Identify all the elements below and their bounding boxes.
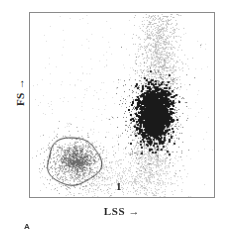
y-axis-label: FS → [14,65,26,119]
scatter-plot-canvas [30,13,214,197]
gate-1-label: 1 [116,180,122,192]
flow-cytometry-figure: 1 FS → LSS → A [0,0,231,236]
x-axis-label: LSS → [29,205,215,217]
panel-label: A [24,222,30,231]
plot-frame: 1 [29,12,215,198]
